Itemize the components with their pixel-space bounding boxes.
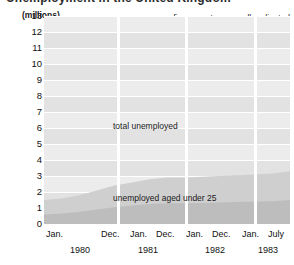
x-axis-tick-label: Jan. [242, 229, 259, 239]
x-axis-year-label: 1980 [66, 245, 94, 255]
x-axis-tick-label: Dec. [212, 229, 231, 239]
x-axis-tick-label: Jan. [130, 229, 147, 239]
x-axis-year-label: 1982 [201, 245, 229, 255]
y-axis: 131211109876543210 [0, 0, 42, 265]
panel-separator [254, 16, 257, 224]
y-axis-tick-label: 2 [4, 187, 42, 197]
x-axis-tick-label: July [268, 229, 284, 239]
y-axis-tick-label: 0 [4, 219, 42, 229]
series-label-under25: unemployed aged under 25 [113, 193, 217, 203]
y-axis-tick-label: 7 [4, 107, 42, 117]
x-axis-tick-label: Dec. [156, 229, 175, 239]
y-axis-tick-label: 4 [4, 155, 42, 165]
x-axis-tick-label: Jan. [46, 229, 63, 239]
y-axis-tick-label: 1 [4, 203, 42, 213]
x-axis-year-label: 1981 [134, 245, 162, 255]
x-axis-tick-label: Dec. [101, 229, 120, 239]
y-axis-tick-label: 3 [4, 171, 42, 181]
y-axis-tick-label: 10 [4, 59, 42, 69]
y-axis-tick-label: 9 [4, 75, 42, 85]
x-axis-year-label: 1983 [254, 245, 282, 255]
unemployment-area-chart: Unemployment in the United Kingdom (mill… [0, 0, 294, 265]
series-label-total-unemployed: total unemployed [113, 121, 178, 131]
y-axis-tick-label: 6 [4, 123, 42, 133]
y-axis-tick-label: 5 [4, 139, 42, 149]
y-axis-tick-label: 12 [4, 27, 42, 37]
clipped-heading: Unemployment in the United Kingdom [6, 0, 292, 5]
x-axis-tick-label: Jan. [186, 229, 203, 239]
y-axis-tick-label: 13 [4, 11, 42, 21]
x-axis-month-labels: Jan.Dec.Jan.Dec.Jan.Dec.Jan.July [0, 229, 294, 243]
y-axis-tick-label: 11 [4, 43, 42, 53]
x-axis-year-labels: 1980198119821983 [0, 245, 294, 259]
gridline [44, 224, 290, 225]
y-axis-tick-label: 8 [4, 91, 42, 101]
